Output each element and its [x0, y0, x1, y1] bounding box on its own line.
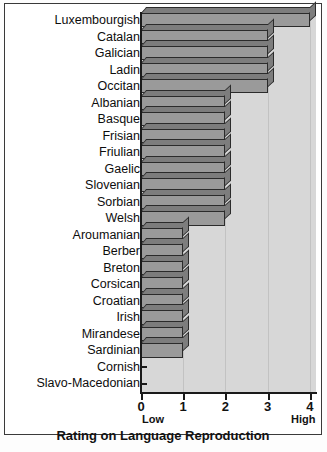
category-label: Galician — [95, 45, 140, 62]
category-label: Frisian — [102, 128, 140, 145]
category-label: Basque — [98, 111, 140, 128]
category-label: Slavo-Macedonian — [36, 375, 140, 392]
x-tick-label-3: 3 — [253, 400, 283, 414]
bar-side-face — [310, 2, 316, 22]
bar-top-face — [141, 106, 231, 112]
x-tick-label-0: 0 — [126, 400, 156, 414]
category-label: Breton — [103, 260, 140, 277]
category-label: Irish — [116, 309, 140, 326]
bar-top-face — [141, 189, 231, 195]
bar-top-face — [141, 255, 189, 261]
bar-top-face — [141, 139, 231, 145]
bar-row: Sardinian — [5, 342, 323, 359]
bar-top-face — [141, 57, 273, 63]
category-label: Occitan — [98, 78, 140, 95]
bar-top-face — [141, 90, 231, 96]
y-axis-line — [140, 12, 142, 394]
bar-top-face — [141, 321, 189, 327]
bar-top-face — [141, 205, 231, 211]
bar-top-face — [141, 40, 273, 46]
bar-row: Cornish — [5, 359, 323, 376]
category-label: Luxembourgish — [55, 12, 140, 29]
bar-row: Slavo-Macedonian — [5, 375, 323, 392]
category-label: Croatian — [93, 293, 140, 310]
category-label: Sardinian — [87, 342, 140, 359]
category-label: Sorbian — [97, 194, 140, 211]
x-tick-label-4: 4 — [295, 400, 325, 414]
bar-top-face — [141, 222, 189, 228]
bar-top-face — [141, 337, 189, 343]
bar-top-face — [141, 24, 273, 30]
category-label: Welsh — [105, 210, 140, 227]
bar-top-face — [141, 238, 189, 244]
category-label: Albanian — [91, 95, 140, 112]
bar-top-face — [141, 73, 273, 79]
axis-low-label: Low — [142, 413, 164, 425]
screenshot-root: LuxembourgishCatalanGalicianLadinOccitan… — [0, 0, 327, 452]
x-axis-line — [141, 392, 317, 394]
x-tick-label-1: 1 — [168, 400, 198, 414]
x-tick-label-2: 2 — [210, 400, 240, 414]
axis-high-label: High — [291, 413, 315, 425]
category-label: Friulian — [99, 144, 140, 161]
category-label: Cornish — [97, 359, 140, 376]
bar-top-face — [141, 288, 189, 294]
chart-frame: LuxembourgishCatalanGalicianLadinOccitan… — [4, 3, 322, 435]
bar-side-face — [183, 332, 189, 352]
category-label: Berber — [102, 243, 140, 260]
bar-top-face — [141, 304, 189, 310]
bar-rows: LuxembourgishCatalanGalicianLadinOccitan… — [5, 12, 323, 392]
bar-top-face — [141, 271, 189, 277]
category-label: Aroumanian — [73, 227, 140, 244]
category-label: Mirandese — [82, 326, 140, 343]
category-label: Catalan — [97, 29, 140, 46]
bar[interactable] — [141, 343, 183, 357]
category-label: Gaelic — [105, 161, 140, 178]
bar-top-face — [141, 123, 231, 129]
bar-top-face — [141, 7, 315, 13]
category-label: Slovenian — [85, 177, 140, 194]
bar-top-face — [141, 172, 231, 178]
bar-side-face — [225, 200, 231, 220]
figure-caption — [6, 441, 306, 451]
category-label: Ladin — [109, 62, 140, 79]
category-label: Corsican — [91, 276, 140, 293]
bar-top-face — [141, 156, 231, 162]
